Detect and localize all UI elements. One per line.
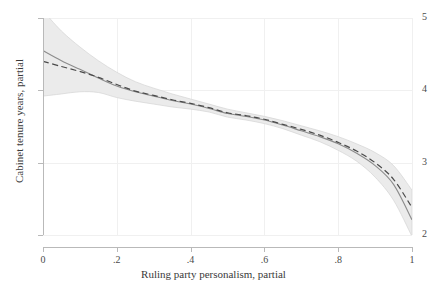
plot-canvas: [43, 18, 412, 235]
y-tick-label: 2: [393, 228, 427, 239]
x-axis-line: [43, 247, 412, 248]
x-tick-mark: [338, 247, 339, 252]
y-tick-mark: [38, 235, 43, 236]
y-tick-label: 3: [393, 156, 427, 167]
x-tick-label: .2: [97, 254, 137, 265]
gridline-horizontal: [43, 235, 412, 236]
y-tick-mark: [38, 90, 43, 91]
x-tick-mark: [43, 247, 44, 252]
x-tick-label: .4: [171, 254, 211, 265]
x-tick-label: 1: [392, 254, 432, 265]
y-tick-mark: [38, 18, 43, 19]
y-tick-label: 4: [393, 83, 427, 94]
plot-area: [43, 18, 412, 235]
x-tick-label: .8: [318, 254, 358, 265]
gridline-vertical: [412, 18, 413, 235]
x-tick-label: 0: [23, 254, 63, 265]
x-axis-title: Ruling party personalism, partial: [0, 268, 427, 280]
x-tick-mark: [412, 247, 413, 252]
y-axis-line: [43, 18, 44, 235]
x-tick-mark: [264, 247, 265, 252]
y-tick-label: 5: [393, 11, 427, 22]
y-axis-title: Cabinet tenure years, partial: [13, 6, 25, 236]
x-tick-mark: [117, 247, 118, 252]
x-tick-label: .6: [244, 254, 284, 265]
y-tick-mark: [38, 163, 43, 164]
x-tick-mark: [191, 247, 192, 252]
confidence-band: [43, 18, 412, 235]
